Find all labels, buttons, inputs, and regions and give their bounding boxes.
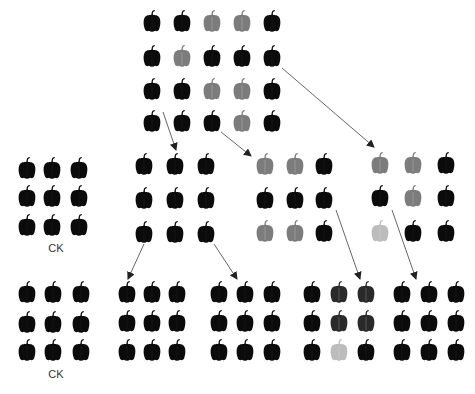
pepper-icon: [232, 108, 252, 133]
pepper-icon: [232, 76, 252, 101]
pepper-icon: [117, 279, 137, 304]
pepper-icon: [329, 279, 349, 304]
pepper-icon: [446, 279, 466, 304]
pepper-icon: [202, 8, 222, 33]
pepper-icon: [235, 279, 255, 304]
pepper-icon: [262, 8, 282, 33]
arrow: [128, 244, 144, 279]
pepper-icon: [370, 218, 390, 243]
pepper-icon: [419, 308, 439, 333]
pepper-icon: [196, 219, 216, 244]
pepper-icon: [436, 150, 456, 175]
pepper-icon: [314, 218, 334, 243]
group-label: CK: [48, 242, 63, 254]
pepper-icon: [69, 183, 89, 208]
pepper-icon: [165, 185, 185, 210]
pepper-icon: [142, 337, 162, 362]
pepper-icon: [314, 185, 334, 210]
pepper-icon: [202, 108, 222, 133]
pepper-icon: [356, 308, 376, 333]
pepper-icon: [43, 309, 63, 334]
pepper-icon: [142, 108, 162, 133]
pepper-icon: [329, 337, 349, 362]
pepper-icon: [117, 308, 137, 333]
pepper-icon: [356, 279, 376, 304]
pepper-icon: [392, 308, 412, 333]
pepper-icon: [403, 218, 423, 243]
pepper-icon: [403, 183, 423, 208]
pepper-icon: [165, 151, 185, 176]
pepper-icon: [262, 279, 282, 304]
pepper-icon: [302, 279, 322, 304]
pepper-icon: [42, 212, 62, 237]
pepper-icon: [17, 155, 37, 180]
pepper-icon: [356, 337, 376, 362]
pepper-icon: [117, 337, 137, 362]
pepper-icon: [69, 212, 89, 237]
pepper-icon: [370, 183, 390, 208]
pepper-icon: [196, 185, 216, 210]
pepper-icon: [167, 279, 187, 304]
pepper-icon: [403, 150, 423, 175]
pepper-icon: [42, 183, 62, 208]
group-label: CK: [48, 368, 63, 380]
pepper-icon: [196, 151, 216, 176]
pepper-icon: [329, 308, 349, 333]
pepper-icon: [142, 308, 162, 333]
pepper-icon: [255, 151, 275, 176]
pepper-icon: [302, 337, 322, 362]
pepper-icon: [285, 185, 305, 210]
pepper-icon: [255, 185, 275, 210]
pepper-icon: [134, 185, 154, 210]
pepper-icon: [17, 183, 37, 208]
pepper-icon: [43, 279, 63, 304]
pepper-icon: [69, 155, 89, 180]
arrow: [282, 68, 374, 147]
pepper-icon: [419, 279, 439, 304]
pepper-icon: [172, 8, 192, 33]
pepper-icon: [17, 212, 37, 237]
pepper-icon: [262, 308, 282, 333]
pepper-icon: [285, 151, 305, 176]
pepper-icon: [209, 308, 229, 333]
pepper-icon: [134, 219, 154, 244]
pepper-icon: [446, 308, 466, 333]
pepper-icon: [436, 183, 456, 208]
pepper-inheritance-diagram: CK: [0, 0, 475, 394]
pepper-icon: [142, 76, 162, 101]
pepper-icon: [392, 279, 412, 304]
pepper-icon: [43, 337, 63, 362]
arrow: [214, 244, 237, 279]
pepper-icon: [209, 337, 229, 362]
pepper-icon: [71, 309, 91, 334]
pepper-icon: [17, 279, 37, 304]
pepper-icon: [419, 337, 439, 362]
pepper-icon: [232, 8, 252, 33]
pepper-icon: [142, 279, 162, 304]
pepper-icon: [235, 337, 255, 362]
pepper-icon: [165, 219, 185, 244]
pepper-icon: [142, 8, 162, 33]
arrow: [221, 132, 251, 156]
pepper-icon: [262, 108, 282, 133]
pepper-icon: [370, 150, 390, 175]
pepper-icon: [17, 309, 37, 334]
pepper-icon: [167, 337, 187, 362]
pepper-icon: [172, 108, 192, 133]
arrow: [336, 210, 360, 279]
pepper-icon: [202, 43, 222, 68]
pepper-icon: [209, 279, 229, 304]
pepper-icon: [71, 337, 91, 362]
pepper-icon: [314, 151, 334, 176]
pepper-icon: [302, 308, 322, 333]
pepper-icon: [285, 218, 305, 243]
pepper-icon: [235, 308, 255, 333]
pepper-icon: [232, 43, 252, 68]
pepper-icon: [446, 337, 466, 362]
pepper-icon: [71, 279, 91, 304]
pepper-icon: [262, 337, 282, 362]
pepper-icon: [167, 308, 187, 333]
pepper-icon: [134, 151, 154, 176]
pepper-icon: [17, 337, 37, 362]
pepper-icon: [142, 43, 162, 68]
